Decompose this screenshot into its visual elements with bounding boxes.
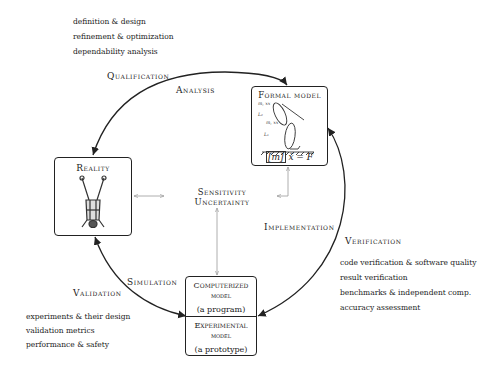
experimental-model: Experimental model (a prototype) xyxy=(186,320,256,355)
formal-annotation: L₁ xyxy=(263,132,269,137)
equation: [m] ẍ = F xyxy=(252,152,327,162)
experimental-title: Experimental xyxy=(186,320,256,331)
validation-item: validation metrics xyxy=(26,324,130,338)
implementation-label: Implementation xyxy=(264,222,335,232)
design-item: dependability analysis xyxy=(73,44,174,59)
verification-item: accuracy assessment xyxy=(340,301,476,316)
computerized-subtitle: (a program) xyxy=(186,304,256,315)
formal-model-title: Formal model xyxy=(252,90,327,100)
reality-box: Reality xyxy=(54,157,132,236)
mass-matrix: [m] xyxy=(266,151,286,163)
computerized-model: Computerized model (a program) xyxy=(186,280,256,315)
experimental-title-2: model xyxy=(186,331,256,342)
formal-model-box: Formal model m, xx L₂ m, xx L₁ [m] ẍ = F xyxy=(251,86,328,166)
validation-list: experiments & their design validation me… xyxy=(26,310,130,352)
reality-title: Reality xyxy=(55,163,131,173)
design-item: definition & design xyxy=(73,14,174,29)
equation-rest: ẍ = F xyxy=(286,152,313,162)
biomechanical-model-icon: m, xx L₂ m, xx L₁ xyxy=(252,100,327,155)
uncertainty-label: Uncertainty xyxy=(167,197,277,207)
computerized-experimental-box: Computerized model (a program) Experimen… xyxy=(185,276,257,356)
validation-item: experiments & their design xyxy=(26,310,130,324)
sensitivity-uncertainty: Sensitivity Uncertainty xyxy=(167,187,277,207)
verification-label: Verification xyxy=(345,236,402,246)
design-item: refinement & optimization xyxy=(73,29,174,44)
verification-item: result verification xyxy=(340,271,476,286)
verification-list: code verification & software quality res… xyxy=(340,256,476,316)
sensitivity-label: Sensitivity xyxy=(167,187,277,197)
simulation-label: Simulation xyxy=(127,277,177,287)
formal-sensitivity-connector xyxy=(277,167,288,196)
formal-annotation: m, xx xyxy=(266,120,279,125)
upside-down-person-icon xyxy=(55,174,131,234)
validation-item: performance & safety xyxy=(26,338,130,352)
computerized-title-2: model xyxy=(186,291,256,302)
analysis-label: Analysis xyxy=(176,85,215,95)
validation-label: Validation xyxy=(73,288,122,298)
formal-annotation: L₂ xyxy=(257,112,263,117)
qualification-label: Qualification xyxy=(107,71,169,81)
formal-annotation: m, xx xyxy=(258,101,271,106)
verification-item: code verification & software quality xyxy=(340,256,476,271)
computerized-title: Computerized xyxy=(186,280,256,291)
design-list: definition & design refinement & optimiz… xyxy=(73,14,174,59)
verification-item: benchmarks & independent comp. xyxy=(340,286,476,301)
box-divider xyxy=(186,316,256,317)
experimental-subtitle: (a prototype) xyxy=(186,344,256,355)
